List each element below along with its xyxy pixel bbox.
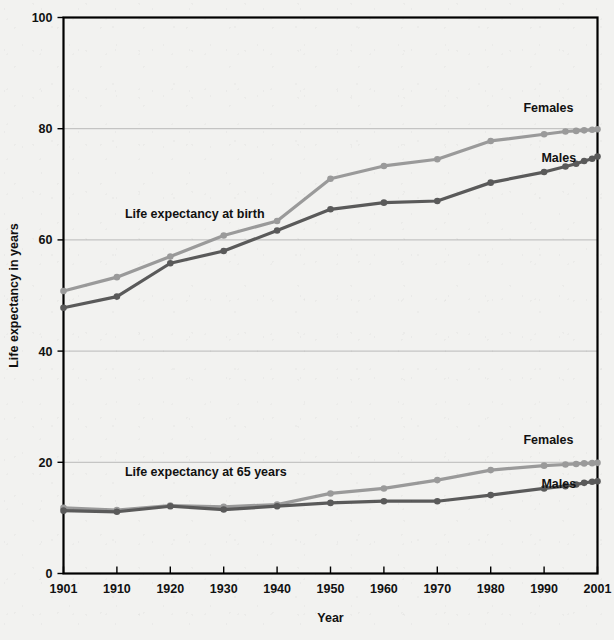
data-point-marker (573, 128, 580, 135)
data-point-marker (167, 260, 174, 267)
y-tick-label: 20 (39, 456, 53, 470)
x-tick-label: 1980 (477, 582, 505, 596)
y-axis-tick-labels: 020406080100 (32, 11, 53, 581)
data-point-marker (167, 253, 174, 260)
data-point-marker (594, 153, 601, 160)
data-point-marker (274, 227, 281, 234)
data-point-marker (581, 158, 588, 165)
x-tick-label: 1940 (263, 582, 291, 596)
plot-border (64, 18, 598, 574)
life-expectancy-chart: 1901191019201930194019501960197019801990… (0, 0, 614, 640)
data-point-marker (581, 127, 588, 134)
data-point-marker (60, 288, 67, 295)
x-tick-label: 1990 (530, 582, 558, 596)
y-tick-label: 0 (46, 567, 53, 581)
x-tick-label: 1910 (103, 582, 131, 596)
data-point-marker (581, 480, 588, 487)
data-point-marker (381, 485, 388, 492)
data-point-marker (381, 163, 388, 170)
y-tick-label: 100 (32, 11, 53, 25)
plot-frame (64, 18, 598, 574)
data-point-marker (114, 293, 121, 300)
x-tick-label: 1950 (317, 582, 345, 596)
x-tick-label: 1920 (156, 582, 184, 596)
y-tick-label: 40 (39, 345, 53, 359)
data-point-marker (594, 460, 601, 467)
data-point-marker (274, 503, 281, 510)
data-point-marker (274, 218, 281, 225)
data-point-marker (220, 248, 227, 255)
chart-canvas: 1901191019201930194019501960197019801990… (0, 0, 614, 640)
data-point-marker (114, 508, 121, 515)
x-axis-title: Year (317, 611, 344, 625)
data-point-marker (487, 179, 494, 186)
data-point-marker (381, 199, 388, 206)
data-point-marker (487, 467, 494, 474)
data-point-marker (434, 477, 441, 484)
data-point-marker (327, 490, 334, 497)
data-point-marker (114, 274, 121, 281)
x-tick-label: 2001 (584, 582, 612, 596)
data-point-marker (60, 304, 67, 311)
x-tick-label: 1970 (423, 582, 451, 596)
data-point-marker (60, 507, 67, 514)
data-point-marker (541, 169, 548, 176)
x-tick-label: 1901 (50, 582, 78, 596)
y-axis-title: Life expectancy in years (7, 223, 21, 368)
data-point-marker (487, 492, 494, 499)
data-point-marker (541, 462, 548, 469)
data-point-marker (487, 138, 494, 145)
data-series-layer (60, 126, 601, 515)
data-point-marker (562, 461, 569, 468)
data-point-marker (541, 131, 548, 138)
data-point-marker (327, 175, 334, 182)
data-point-marker (434, 156, 441, 163)
series-label-males: Males (541, 151, 576, 165)
series-label-males: Males (541, 477, 576, 491)
x-tick-label: 1960 (370, 582, 398, 596)
series-end-labels: FemalesMalesFemalesMales (523, 101, 576, 491)
series-label-females: Females (523, 101, 573, 115)
data-point-marker (581, 460, 588, 467)
data-point-marker (220, 506, 227, 513)
data-point-marker (434, 198, 441, 205)
data-point-marker (220, 232, 227, 239)
y-tick-label: 80 (39, 122, 53, 136)
series-label-females: Females (523, 433, 573, 447)
data-point-marker (327, 500, 334, 507)
x-tick-label: 1930 (210, 582, 238, 596)
data-point-marker (562, 128, 569, 135)
inline-annotations: Life expectancy at birthLife expectancy … (125, 207, 287, 479)
data-point-marker (594, 126, 601, 133)
chart-annotation: Life expectancy at birth (125, 207, 265, 221)
y-tick-label: 60 (39, 233, 53, 247)
data-point-marker (573, 461, 580, 468)
chart-annotation: Life expectancy at 65 years (125, 465, 287, 479)
data-point-marker (594, 478, 601, 485)
data-point-marker (434, 498, 441, 505)
data-point-marker (381, 498, 388, 505)
data-point-marker (167, 503, 174, 510)
x-axis-tick-labels: 1901191019201930194019501960197019801990… (50, 582, 612, 596)
data-point-marker (327, 206, 334, 213)
